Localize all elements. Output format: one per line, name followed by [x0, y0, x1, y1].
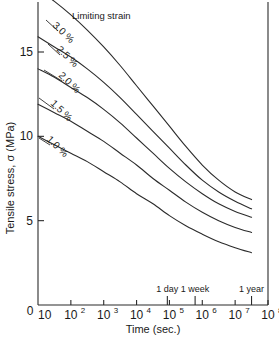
- x-tick-label-base: 10: [130, 308, 144, 322]
- x-tick-label: 106: [196, 306, 218, 322]
- x-tick-label-exponent: 7: [245, 306, 250, 315]
- origin-zero-label: 0: [27, 304, 34, 318]
- curve-20: [38, 69, 252, 217]
- x-axis-title: Time (sec.): [126, 323, 181, 335]
- curve-label-10: 1.0 %: [45, 134, 71, 160]
- x-tick-label-exponent: 6: [212, 306, 217, 315]
- legend-title: Limiting strain: [72, 10, 131, 21]
- x-tick-label: 103: [97, 306, 119, 322]
- x-tick-label-exponent: 4: [147, 306, 152, 315]
- event-label-1-day: 1 day: [156, 284, 179, 294]
- x-tick-label: 102: [64, 306, 86, 322]
- y-tick-label: 10: [20, 129, 34, 143]
- x-tick-label: 108: [261, 306, 279, 322]
- chart-canvas: 51015 10102103104105106107108 1 day1 wee…: [0, 0, 279, 338]
- x-tick-label-exponent: 8: [278, 306, 279, 315]
- x-tick-label-base: 10: [196, 308, 210, 322]
- x-tick-label: 10: [38, 308, 52, 322]
- curve-label-25: 2.5 %: [55, 44, 81, 70]
- event-label-1-week: 1 week: [181, 284, 210, 294]
- event-label-1-year: 1 year: [239, 284, 264, 294]
- x-tick-label-exponent: 5: [179, 306, 184, 315]
- curve-label-30: 3.0 %: [51, 20, 77, 46]
- curve-10: [38, 136, 252, 252]
- y-axis-ticks: 51015: [20, 45, 44, 228]
- x-tick-label-base: 10: [38, 308, 52, 322]
- y-tick-label: 15: [20, 45, 34, 59]
- tensile-stress-vs-time-chart: 51015 10102103104105106107108 1 day1 wee…: [0, 0, 279, 338]
- curve-label-20: 2.0 %: [57, 70, 83, 96]
- curve-label-15: 1.5 %: [49, 98, 75, 124]
- y-tick-label: 5: [26, 214, 33, 228]
- x-tick-label-base: 10: [64, 308, 78, 322]
- x-tick-label-base: 10: [97, 308, 111, 322]
- x-tick-label-exponent: 3: [114, 306, 119, 315]
- x-tick-label-base: 10: [261, 308, 275, 322]
- x-axis-ticks: 10102103104105106107108: [38, 300, 279, 322]
- x-tick-label: 105: [163, 306, 185, 322]
- x-tick-label: 107: [228, 306, 250, 322]
- x-tick-label-exponent: 2: [81, 306, 86, 315]
- x-tick-label-base: 10: [228, 308, 242, 322]
- x-tick-label-base: 10: [163, 308, 177, 322]
- y-axis-title: Tensile stress, σ (MPa): [4, 122, 16, 235]
- x-tick-label: 104: [130, 306, 152, 322]
- event-markers: 1 day1 week1 year: [156, 284, 264, 305]
- curve-labels: 3.0 %2.5 %2.0 %1.5 %1.0 %: [39, 20, 83, 160]
